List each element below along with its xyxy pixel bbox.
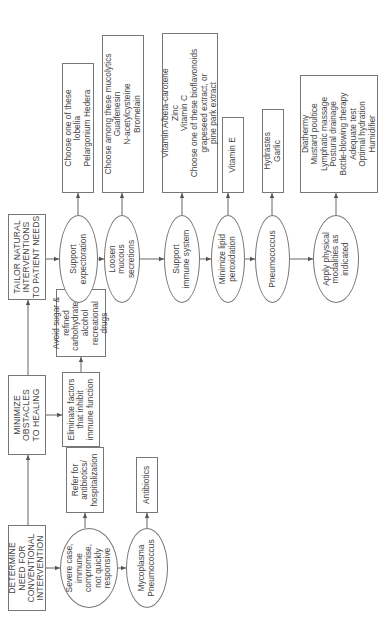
loosen-secretions-ellipse: Loosen mucous secretions: [104, 215, 140, 303]
severe-case-ellipse: Severe case, immune compromise, not quic…: [60, 528, 118, 608]
antibiotics-box: Antibiotics: [136, 457, 158, 513]
support-expectoration-ellipse: Support expectoration: [59, 215, 98, 303]
immune-treatment-box: Vitamin A/beta-carotene Zinc Vitamin C C…: [162, 33, 218, 193]
eliminate-factors-box: Eliminate factors that inhibit immune fu…: [62, 372, 100, 447]
physical-modalities-treatment-box: Diathermy Mustard poultice Lymphatic mas…: [300, 75, 378, 193]
expectoration-treatment-box: Choose one of these lobelia Pelargonium …: [62, 63, 94, 193]
mucolytics-treatment-box: Choose among these mucolytics Guaifenesi…: [102, 35, 144, 193]
vitamin-e-box: Vitamin E: [222, 117, 244, 193]
refer-antibiotics-box: Refer for antibiotics/ hospitalization: [66, 447, 104, 513]
physical-modalities-ellipse: Apply physical modalities as indicated: [313, 215, 359, 303]
header-tailor-natural: TAILOR NATURAL INTERVENTIONS TO PATIENT …: [8, 214, 46, 300]
hydrastes-garlic-box: Hydrastes Garlic: [262, 109, 284, 193]
header-minimize-obstacles: MINIMIZE OBSTACLES TO HEALING: [8, 375, 46, 455]
flowchart-canvas: DETERMINE NEED FOR CONVENTIONAL INTERVEN…: [0, 0, 384, 625]
pneumococcus-ellipse: Pneumococcus: [255, 215, 290, 303]
support-immune-ellipse: Support immune system: [164, 215, 200, 303]
header-determine-need: DETERMINE NEED FOR CONVENTIONAL INTERVEN…: [8, 525, 46, 611]
mycoplasma-ellipse: Mycoplasma Pneumococcus: [126, 528, 168, 608]
minimize-lipid-ellipse: Minimize lipid peroxidation: [211, 215, 245, 303]
